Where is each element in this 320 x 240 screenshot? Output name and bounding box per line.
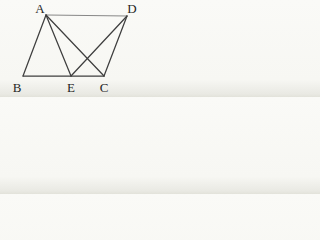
edge-DE: [71, 16, 127, 76]
edge-DC: [104, 16, 127, 76]
vertex-label-B: B: [13, 80, 22, 95]
edge-AD: [46, 15, 127, 16]
edge-AB: [23, 15, 46, 76]
edge-AE: [46, 15, 71, 76]
parallelogram-diagram: ADBEC: [0, 0, 145, 97]
vertex-label-D: D: [127, 1, 136, 16]
geometry-figure: ADBEC: [0, 0, 145, 97]
vertex-label-A: A: [35, 1, 45, 16]
edge-AC: [46, 15, 104, 76]
vertex-label-E: E: [67, 80, 75, 95]
vertex-label-C: C: [100, 80, 109, 95]
